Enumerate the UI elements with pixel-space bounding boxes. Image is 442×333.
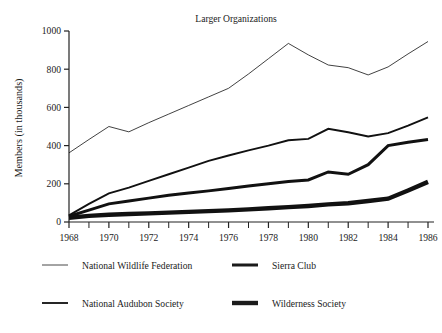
y-tick-label: 0 [56,216,61,227]
y-tick-label: 400 [47,140,62,151]
x-tick-label: 1976 [219,232,238,243]
line-chart-figure: Larger Organizations Members (in thousan… [0,0,442,333]
y-axis-title: Members (in thousands) [13,78,25,177]
x-tick-label: 1984 [379,232,398,243]
y-tick-label: 200 [47,178,62,189]
x-tick-label: 1968 [59,232,78,243]
legend-item[interactable]: National Wildlife Federation [42,260,192,271]
chart-legend: National Wildlife FederationSierra ClubN… [42,260,346,309]
x-tick-label: 1970 [99,232,118,243]
legend-label: Wilderness Society [272,298,346,309]
legend-item[interactable]: Wilderness Society [232,298,346,309]
chart-canvas: Larger Organizations Members (in thousan… [0,0,442,333]
chart-page: Larger Organizations Members (in thousan… [0,0,442,333]
y-tick-label: 800 [47,64,62,75]
x-tick-label: 1972 [139,232,158,243]
legend-label: Sierra Club [272,260,316,271]
x-tick-label: 1986 [418,232,437,243]
legend-item[interactable]: National Audubon Society [42,298,184,309]
data-series-group [69,42,428,218]
legend-label: National Audubon Society [82,298,184,309]
x-tick-label: 1978 [259,232,278,243]
legend-item[interactable]: Sierra Club [232,260,316,271]
x-tick-label: 1974 [179,232,198,243]
chart-title: Larger Organizations [195,13,277,24]
legend-label: National Wildlife Federation [82,260,192,271]
x-tick-label: 1982 [339,232,358,243]
x-axis-minor-ticks [89,222,408,228]
y-axis-ticks: 02004006008001000 [42,25,69,227]
y-tick-label: 1000 [42,25,61,36]
y-tick-label: 600 [47,102,62,113]
x-tick-label: 1980 [299,232,318,243]
